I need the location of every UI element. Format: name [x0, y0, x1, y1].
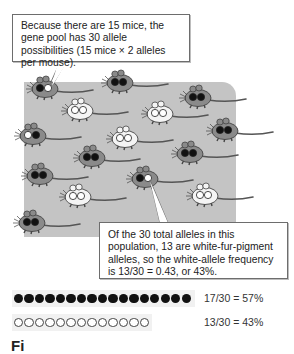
white-allele-frequency: 13/30 = 43%: [204, 316, 263, 328]
dark-allele-icon: [189, 93, 196, 100]
dark-allele-icon: [23, 218, 30, 225]
dark-allele-dot: [171, 294, 180, 303]
dark-allele-dot: [56, 294, 65, 303]
dark-allele-icon: [216, 126, 223, 133]
dark-allele-icon: [83, 153, 90, 160]
white-allele-dot: [98, 318, 107, 327]
white-allele-dot: [45, 318, 54, 327]
white-allele-icon: [204, 191, 211, 198]
white-allele-dot: [14, 318, 23, 327]
white-allele-icon: [71, 106, 78, 113]
mouse: [126, 166, 193, 190]
dark-allele-icon: [32, 131, 39, 138]
dark-allele-dot: [182, 294, 191, 303]
dark-allele-dot: [119, 294, 128, 303]
dark-allele-dot: [140, 294, 149, 303]
white-allele-dots: [14, 314, 149, 331]
mouse: [179, 85, 246, 109]
mouse: [14, 123, 81, 147]
dark-allele-dot: [98, 294, 107, 303]
dark-allele-dot: [108, 294, 117, 303]
dark-allele-dot: [129, 294, 138, 303]
white-allele-row: [12, 314, 152, 331]
white-allele-icon: [116, 134, 123, 141]
mouse: [73, 145, 140, 169]
dark-allele-dot: [14, 294, 23, 303]
dark-allele-icon: [31, 171, 38, 178]
dark-allele-dot: [87, 294, 96, 303]
white-allele-icon: [196, 191, 203, 198]
white-allele-dot: [87, 318, 96, 327]
mouse: [106, 126, 173, 150]
white-allele-icon: [79, 106, 86, 113]
white-allele-dot: [129, 318, 138, 327]
mouse: [13, 210, 80, 234]
white-allele-dot: [35, 318, 44, 327]
dark-allele-dot: [77, 294, 86, 303]
dark-allele-icon: [119, 78, 126, 85]
white-allele-dot: [66, 318, 75, 327]
dark-allele-dot: [45, 294, 54, 303]
white-allele-dot: [108, 318, 117, 327]
white-allele-icon: [24, 131, 31, 138]
mouse: [21, 163, 88, 187]
dark-allele-dot: [161, 294, 170, 303]
dark-allele-dot: [66, 294, 75, 303]
dark-allele-dot: [150, 294, 159, 303]
white-allele-icon: [151, 109, 158, 116]
mouse: [171, 141, 238, 165]
white-allele-icon: [124, 134, 131, 141]
mouse: [206, 118, 273, 142]
white-allele-dot: [24, 318, 33, 327]
dark-allele-icon: [39, 171, 46, 178]
dark-allele-icon: [91, 153, 98, 160]
dark-allele-icon: [111, 78, 118, 85]
dark-allele-icon: [136, 174, 143, 181]
dark-allele-dots: [14, 290, 191, 307]
callout-gene-pool: Because there are 15 mice, the gene pool…: [12, 14, 190, 62]
mouse: [101, 70, 168, 94]
dark-allele-row: [12, 290, 195, 307]
dark-allele-dot: [24, 294, 33, 303]
white-allele-icon: [44, 84, 51, 91]
dark-allele-frequency: 17/30 = 57%: [204, 292, 263, 304]
mouse: [26, 76, 93, 100]
dark-allele-icon: [36, 84, 43, 91]
white-allele-dot: [77, 318, 86, 327]
mouse: [186, 183, 253, 207]
white-allele-dot: [140, 318, 149, 327]
dark-allele-icon: [181, 149, 188, 156]
figure-label: Fi: [11, 337, 24, 354]
dark-allele-icon: [197, 93, 204, 100]
dark-allele-icon: [189, 149, 196, 156]
mouse: [61, 98, 128, 122]
dark-allele-icon: [31, 218, 38, 225]
mouse: [59, 184, 126, 208]
white-allele-icon: [69, 192, 76, 199]
white-allele-icon: [77, 192, 84, 199]
dark-allele-dot: [35, 294, 44, 303]
callout-allele-frequency: Of the 30 total alleles in this populati…: [99, 222, 288, 279]
white-allele-dot: [119, 318, 128, 327]
white-allele-dot: [56, 318, 65, 327]
dark-allele-icon: [224, 126, 231, 133]
white-allele-icon: [159, 109, 166, 116]
